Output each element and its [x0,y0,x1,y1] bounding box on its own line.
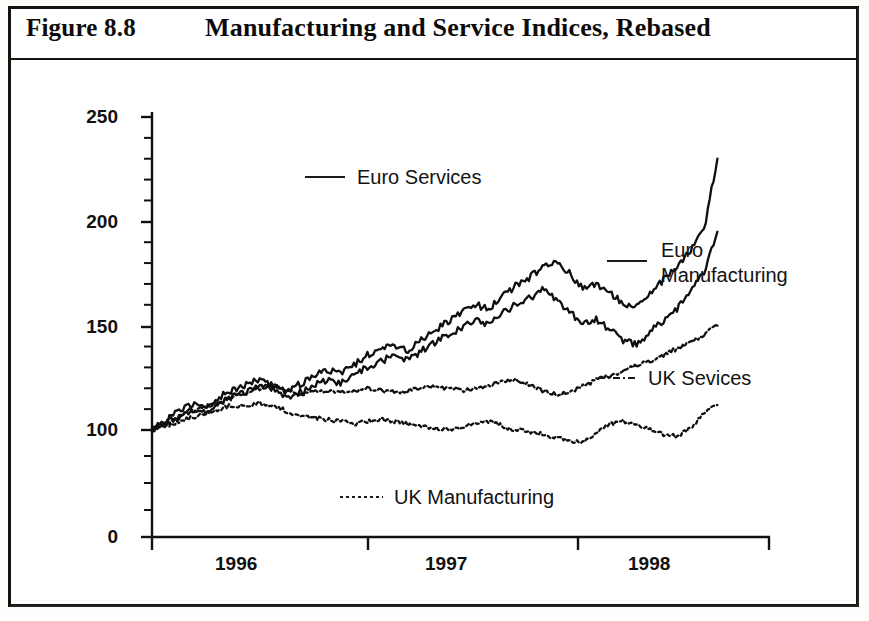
series-line-uk-manufacturing [152,401,717,443]
legend-label-uk-manufacturing: UK Manufacturing [394,485,554,510]
x-axis-ticks [152,537,769,550]
y-tick-label-150: 150 [66,316,118,338]
legend-label-euro-manufacturing: Euro Manufacturing [661,238,788,288]
series-line-euro-services [152,159,717,430]
y-tick-label-250: 250 [66,106,118,128]
x-tick-label-1997: 1997 [425,553,467,575]
chart-canvas [0,0,869,621]
x-tick-label-1996: 1996 [215,553,257,575]
legend-label-euro-manufacturing-line1: Euro [661,238,788,263]
figure-page: Figure 8.8 Manufacturing and Service Ind… [0,0,869,621]
legend-label-uk-services: UK Sevices [648,366,751,391]
legend-swatches [305,177,647,497]
y-tick-label-0: 0 [66,526,118,548]
x-tick-label-1998: 1998 [628,553,670,575]
y-tick-label-100: 100 [66,419,118,441]
legend-label-euro-manufacturing-line2: Manufacturing [661,263,788,288]
legend-label-euro-services: Euro Services [357,165,482,190]
y-tick-label-200: 200 [66,211,118,233]
series-group [152,159,717,443]
